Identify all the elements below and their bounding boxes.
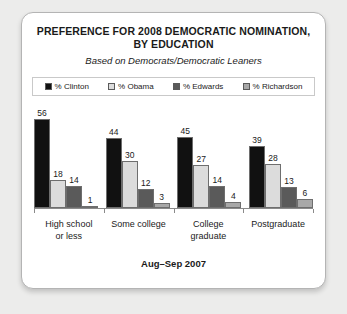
bar-slot: 28 (265, 96, 281, 208)
axis-tick (313, 209, 314, 213)
bar-value-label: 39 (249, 135, 265, 145)
axis-tick (104, 209, 105, 213)
category-label-line: or less (34, 230, 104, 242)
bar-value-label: 30 (122, 150, 138, 160)
bar (193, 165, 209, 208)
bar-group: 5618141 (34, 96, 98, 208)
axis-tick (34, 209, 35, 213)
bar (106, 138, 122, 208)
bar-group: 3928136 (249, 96, 313, 208)
legend-item-clinton: % Clinton (45, 82, 89, 91)
bar-slot: 30 (122, 96, 138, 208)
legend-label-edwards: % Edwards (183, 82, 223, 91)
bar (249, 146, 265, 208)
bar (50, 180, 66, 208)
bar (297, 199, 313, 208)
bar-value-label: 44 (106, 127, 122, 137)
category-label: Collegegraduate (174, 218, 244, 242)
bar-value-label: 18 (50, 169, 66, 179)
category-labels: High schoolor lessSome collegeCollegegra… (34, 218, 313, 242)
bar-value-label: 14 (66, 175, 82, 185)
bar-slot: 6 (297, 96, 313, 208)
bar-value-label: 45 (177, 126, 193, 136)
chart-subtitle: Based on Democrats/Democratic Leaners (22, 55, 325, 66)
category-label-line: Some college (104, 218, 174, 230)
chart-card: PREFERENCE FOR 2008 DEMOCRATIC NOMINATIO… (21, 12, 326, 289)
bar-value-label: 14 (209, 175, 225, 185)
category-label-line: graduate (174, 230, 244, 242)
bar-slot: 14 (66, 96, 82, 208)
category-label: High schoolor less (34, 218, 104, 242)
legend-swatch-obama (108, 83, 115, 90)
bar (138, 189, 154, 208)
bar-groups: 5618141443012345271443928136 (34, 96, 313, 208)
legend-label-richardson: % Richardson (253, 82, 303, 91)
bar-slot: 44 (106, 96, 122, 208)
bar (209, 186, 225, 208)
legend-label-clinton: % Clinton (55, 82, 89, 91)
legend-item-richardson: % Richardson (243, 82, 303, 91)
bar-slot: 18 (50, 96, 66, 208)
bar (177, 137, 193, 208)
chart-title: PREFERENCE FOR 2008 DEMOCRATIC NOMINATIO… (22, 25, 325, 51)
bar-value-label: 3 (154, 192, 170, 202)
bar-slot: 13 (281, 96, 297, 208)
bar-slot: 4 (225, 96, 241, 208)
chart-title-line-2: BY EDUCATION (22, 38, 325, 51)
bar-slot: 45 (177, 96, 193, 208)
chart-x-axis (34, 208, 313, 215)
legend-label-obama: % Obama (118, 82, 154, 91)
bar-value-label: 28 (265, 153, 281, 163)
axis-tick (174, 209, 175, 213)
category-label-line: Postgraduate (243, 218, 313, 230)
bar-value-label: 6 (297, 188, 313, 198)
chart-title-line-1: PREFERENCE FOR 2008 DEMOCRATIC NOMINATIO… (22, 25, 325, 38)
bar-value-label: 12 (138, 178, 154, 188)
bar-slot: 1 (82, 96, 98, 208)
bar (281, 187, 297, 208)
bar (66, 186, 82, 208)
chart-footnote: Aug–Sep 2007 (22, 258, 325, 269)
bar-slot: 12 (138, 96, 154, 208)
chart-plot-area: 5618141443012345271443928136 (34, 96, 313, 208)
legend-swatch-edwards (173, 83, 180, 90)
legend-swatch-richardson (243, 83, 250, 90)
bar (265, 164, 281, 208)
bar-value-label: 13 (281, 176, 297, 186)
legend-item-edwards: % Edwards (173, 82, 223, 91)
legend-item-obama: % Obama (108, 82, 154, 91)
bar-slot: 27 (193, 96, 209, 208)
axis-tick (243, 209, 244, 213)
category-label: Some college (104, 218, 174, 242)
bar (122, 161, 138, 208)
bar-slot: 39 (249, 96, 265, 208)
bar-slot: 14 (209, 96, 225, 208)
bar-slot: 3 (154, 96, 170, 208)
bar-value-label: 4 (225, 191, 241, 201)
bar-value-label: 1 (82, 195, 98, 205)
category-label-line: College (174, 218, 244, 230)
bar-group: 4527144 (177, 96, 241, 208)
category-label: Postgraduate (243, 218, 313, 242)
category-label-line: High school (34, 218, 104, 230)
bar-value-label: 56 (34, 108, 50, 118)
bar (34, 119, 50, 208)
chart-legend: % Clinton % Obama % Edwards % Richardson (32, 77, 315, 96)
legend-swatch-clinton (45, 83, 52, 90)
bar-slot: 56 (34, 96, 50, 208)
bar-group: 4430123 (106, 96, 170, 208)
bar-value-label: 27 (193, 154, 209, 164)
